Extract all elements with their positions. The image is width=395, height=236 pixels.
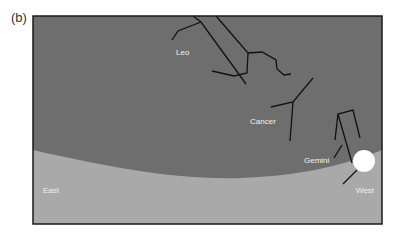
sun-icon (353, 150, 375, 172)
leo-label: Leo (176, 48, 190, 57)
east-label: East (43, 186, 60, 195)
gemini-label: Gemini (304, 156, 330, 165)
cancer-label: Cancer (250, 117, 276, 126)
sky-diagram: Leo Cancer Gemini East West (0, 0, 395, 236)
west-label: West (356, 186, 375, 195)
